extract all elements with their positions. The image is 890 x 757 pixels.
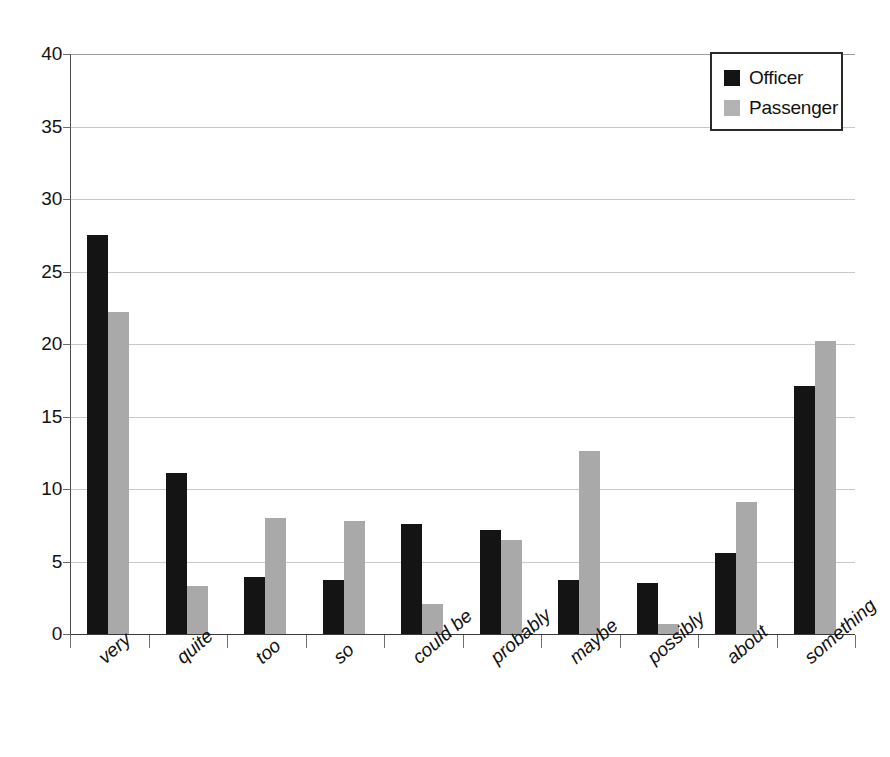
y-tick-mark-5 (63, 562, 71, 563)
y-tick-mark-15 (63, 417, 71, 418)
bar-officer-quite (166, 473, 187, 634)
x-tick-mark (227, 635, 228, 648)
y-tick-label-30: 30 (22, 188, 62, 210)
legend-swatch-icon (724, 100, 740, 116)
x-tick-mark (149, 635, 150, 648)
y-tick-mark-20 (63, 344, 71, 345)
y-tick-label-15: 15 (22, 406, 62, 428)
plot-area (70, 54, 855, 634)
bar-passenger-very (108, 312, 129, 634)
legend-label: Passenger (749, 97, 838, 119)
bar-group (227, 54, 306, 634)
x-tick-label-so: so (329, 639, 359, 669)
bar-officer-something (794, 386, 815, 634)
bar-passenger-about (736, 502, 757, 634)
y-tick-mark-10 (63, 489, 71, 490)
legend-item-passenger[interactable]: Passenger (724, 93, 841, 123)
bar-group (777, 54, 856, 634)
bar-officer-probably (480, 530, 501, 634)
bar-passenger-something (815, 341, 836, 634)
bar-group (541, 54, 620, 634)
bar-group (384, 54, 463, 634)
bar-group (463, 54, 542, 634)
y-tick-mark-35 (63, 127, 71, 128)
bar-officer-could-be (401, 524, 422, 634)
legend-item-officer[interactable]: Officer (724, 63, 841, 93)
y-tick-label-35: 35 (22, 116, 62, 138)
bar-officer-very (87, 235, 108, 634)
y-tick-mark-25 (63, 272, 71, 273)
y-tick-label-20: 20 (22, 333, 62, 355)
x-tick-mark (541, 635, 542, 648)
y-tick-label-0: 0 (22, 623, 62, 645)
bar-group (620, 54, 699, 634)
bar-passenger-so (344, 521, 365, 634)
y-tick-mark-40 (63, 54, 71, 55)
x-tick-mark (70, 635, 71, 648)
y-tick-label-40: 40 (22, 43, 62, 65)
y-tick-label-10: 10 (22, 478, 62, 500)
y-tick-mark-30 (63, 199, 71, 200)
x-tick-mark (777, 635, 778, 648)
x-tick-label-too: too (251, 635, 285, 669)
bar-officer-maybe (558, 580, 579, 634)
legend: OfficerPassenger (710, 52, 843, 131)
bar-officer-about (715, 553, 736, 634)
bar-passenger-probably (501, 540, 522, 634)
bar-group (306, 54, 385, 634)
bar-officer-possibly (637, 583, 658, 634)
x-tick-mark (384, 635, 385, 648)
bar-officer-so (323, 580, 344, 634)
x-tick-mark (620, 635, 621, 648)
bar-group (149, 54, 228, 634)
bar-chart: 4035302520151050 veryquitetoosocould bep… (0, 0, 890, 757)
y-axis-tick-labels: 4035302520151050 (14, 54, 62, 634)
legend-swatch-icon (724, 70, 740, 86)
legend-label: Officer (749, 67, 803, 89)
bar-group (698, 54, 777, 634)
x-tick-mark (306, 635, 307, 648)
bar-officer-too (244, 577, 265, 634)
x-tick-mark (855, 635, 856, 648)
bar-passenger-too (265, 518, 286, 634)
x-tick-mark (698, 635, 699, 648)
bar-passenger-maybe (579, 451, 600, 634)
y-tick-label-5: 5 (22, 551, 62, 573)
y-tick-label-25: 25 (22, 261, 62, 283)
bar-group (70, 54, 149, 634)
x-tick-mark (463, 635, 464, 648)
